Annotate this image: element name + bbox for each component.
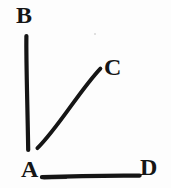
vertex-label-d: D [140, 155, 157, 179]
vertex-label-a: A [21, 157, 38, 181]
geometry-figure: B C A D [0, 0, 171, 188]
segment-ac [37, 69, 100, 149]
segment-ad [42, 176, 140, 178]
vertex-label-b: B [16, 3, 32, 27]
vertex-label-c: C [104, 55, 121, 79]
scan-speck [94, 33, 96, 35]
segment-ab [26, 36, 28, 150]
